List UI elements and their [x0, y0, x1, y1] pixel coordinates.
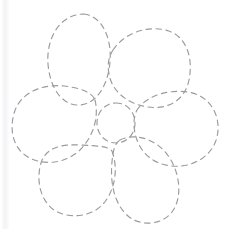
petal-bottom-right — [112, 137, 179, 223]
petal-top-left — [48, 14, 110, 105]
petal-right — [134, 91, 218, 166]
petal-group — [12, 14, 218, 223]
flower-outline-drawing — [0, 0, 227, 229]
drawing-canvas — [0, 0, 227, 229]
petal-top-right — [108, 29, 190, 108]
petal-bottom-left — [39, 145, 115, 216]
petal-left — [12, 86, 96, 163]
